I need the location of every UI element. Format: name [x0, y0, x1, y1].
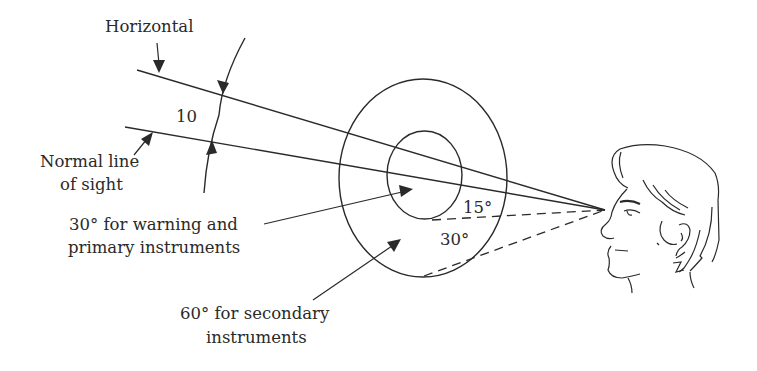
secondary-pointer	[313, 246, 392, 300]
primary-arrowhead-icon	[399, 185, 413, 197]
angle-arc	[204, 38, 245, 193]
label-secondary-2: instruments	[206, 328, 307, 347]
visual-field-diagram: Horizontal 10 Normal line of sight 30° f…	[0, 0, 757, 371]
primary-pointer	[264, 192, 402, 224]
label-normal-line-2: of sight	[60, 175, 123, 194]
horizontal-arrowhead-icon	[153, 60, 165, 73]
label-primary-1: 30° for warning and	[69, 215, 238, 234]
label-outer-angle: 30°	[440, 230, 469, 249]
arc-arrowhead-down-icon	[217, 80, 229, 94]
label-secondary-1: 60° for secondary	[180, 304, 330, 323]
secondary-arrowhead-icon	[387, 239, 401, 252]
label-normal-line-1: Normal line	[40, 152, 139, 171]
label-inner-angle: 15°	[463, 198, 492, 217]
horizontal-line	[137, 70, 605, 210]
human-head-profile	[601, 145, 719, 293]
label-angle-10: 10	[176, 107, 197, 126]
label-horizontal: Horizontal	[105, 17, 194, 36]
dashed-line-15deg	[432, 210, 605, 220]
primary-zone-ellipse	[387, 131, 462, 219]
normal-line-of-sight	[125, 127, 605, 210]
label-primary-2: primary instruments	[68, 238, 240, 257]
